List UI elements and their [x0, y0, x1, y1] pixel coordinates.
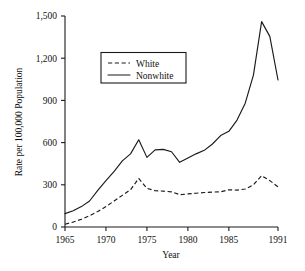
line-chart-canvas: 03006009001,2001,500 1965197019751980198…	[0, 0, 305, 271]
x-tick-label: 1991	[269, 235, 288, 245]
x-axis-tick-labels: 196519701975198019851991	[56, 235, 288, 245]
x-axis-title: Year	[162, 250, 180, 260]
x-tick-label: 1980	[178, 235, 197, 245]
chart-figure: 03006009001,2001,500 1965197019751980198…	[0, 0, 305, 271]
y-tick-label: 900	[43, 96, 58, 106]
x-tick-label: 1965	[56, 235, 75, 245]
y-axis-tick-labels: 03006009001,2001,500	[36, 11, 58, 232]
y-tick-label: 300	[43, 180, 58, 190]
y-axis-ticks	[61, 16, 65, 227]
y-tick-label: 1,500	[36, 11, 58, 21]
series-line-white	[65, 176, 278, 225]
x-tick-label: 1985	[219, 235, 238, 245]
x-axis-ticks	[65, 227, 278, 231]
legend-label-nonwhite: Nonwhite	[136, 71, 173, 81]
y-tick-label: 0	[52, 222, 57, 232]
y-axis-group: 03006009001,2001,500	[36, 11, 65, 232]
legend-label-white: White	[136, 59, 159, 69]
y-axis-title: Rate per 100,000 Population	[14, 67, 24, 176]
y-tick-label: 1,200	[36, 54, 58, 64]
y-tick-label: 600	[43, 138, 58, 148]
x-axis-group: 196519701975198019851991	[56, 227, 288, 245]
x-tick-label: 1975	[137, 235, 156, 245]
chart-legend: White Nonwhite	[101, 53, 186, 84]
series-line-nonwhite	[65, 22, 278, 214]
x-tick-label: 1970	[96, 235, 115, 245]
